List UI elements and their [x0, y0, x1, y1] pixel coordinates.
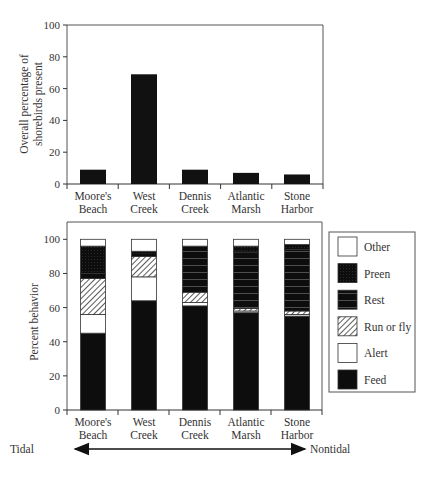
y-tick-label: 80 — [49, 51, 61, 63]
legend-label: Run or fly — [364, 321, 412, 334]
x-category-label: Creek — [181, 203, 209, 215]
x-category-label: Stone — [284, 190, 310, 202]
x-category-label: Atlantic — [227, 416, 264, 428]
top-chart-shorebird-presence: 020406080100Moore'sBeachWestCreekDennisC… — [44, 19, 324, 215]
y-tick-label: 80 — [49, 267, 61, 279]
tidal-label: Tidal — [10, 443, 34, 455]
legend-label: Other — [364, 241, 390, 253]
top-plot-frame — [67, 25, 323, 184]
x-category-label: Dennis — [179, 190, 212, 202]
bar — [131, 74, 157, 184]
stack-segment-alert — [183, 302, 208, 305]
stack-segment-feed — [183, 306, 208, 410]
stack-segment-run-or-fly — [285, 311, 310, 314]
bar — [233, 173, 259, 184]
stack-segment-feed — [132, 301, 157, 410]
stack-segment-other — [234, 239, 259, 246]
stack-segment-feed — [81, 333, 106, 410]
legend-label: Preen — [364, 268, 390, 280]
stack-segment-feed — [234, 313, 259, 410]
legend: OtherPreenRestRun or flyAlertFeed — [329, 232, 415, 392]
x-category-label: Stone — [284, 416, 310, 428]
x-category-label: Moore's — [74, 416, 112, 428]
stack-segment-preen — [234, 246, 259, 252]
bar — [182, 170, 208, 184]
legend-label: Feed — [364, 374, 387, 386]
bottom-chart-percent-behavior: 020406080100Moore'sBeachWestCreekDennisC… — [44, 222, 323, 441]
stack-segment-rest — [234, 252, 259, 308]
top-y-axis-label-line2: shorebirds present — [32, 61, 45, 146]
legend-swatch-alert — [338, 343, 357, 362]
bar — [284, 174, 310, 184]
legend-swatch-preen — [338, 264, 357, 283]
y-tick-label: 40 — [49, 114, 61, 126]
stack-segment-other — [183, 239, 208, 246]
x-category-label: West — [133, 190, 157, 202]
nontidal-label: Nontidal — [310, 443, 350, 455]
bar — [80, 170, 106, 184]
legend-swatch-other — [338, 237, 357, 256]
y-tick-label: 60 — [49, 302, 61, 314]
x-category-label: Creek — [130, 203, 158, 215]
stack-segment-run-or-fly — [183, 292, 208, 302]
stack-segment-rest — [183, 246, 208, 292]
legend-swatch-rest — [338, 290, 357, 309]
x-category-label: Moore's — [74, 190, 112, 202]
y-tick-label: 60 — [49, 83, 61, 95]
y-tick-label: 0 — [55, 404, 61, 416]
stack-segment-rest — [285, 250, 310, 311]
y-tick-label: 20 — [49, 146, 61, 158]
legend-label: Alert — [364, 347, 388, 359]
stack-segment-run-or-fly — [81, 279, 106, 315]
stack-segment-other — [132, 239, 157, 251]
x-category-label: Beach — [79, 429, 108, 441]
x-category-label: West — [133, 416, 157, 428]
stack-segment-other — [81, 239, 106, 246]
stack-segment-preen — [81, 246, 106, 273]
stack-segment-preen — [285, 244, 310, 249]
x-category-label: Dennis — [179, 416, 212, 428]
stack-segment-alert — [132, 277, 157, 301]
y-tick-label: 20 — [49, 370, 61, 382]
x-category-label: Creek — [181, 429, 209, 441]
x-category-label: Marsh — [231, 203, 261, 215]
stack-segment-rest — [81, 273, 106, 278]
y-tick-label: 0 — [55, 178, 61, 190]
legend-label: Rest — [364, 294, 385, 306]
legend-swatch-feed — [338, 370, 357, 389]
x-category-label: Atlantic — [227, 190, 264, 202]
x-category-label: Harbor — [281, 429, 314, 441]
x-category-label: Creek — [130, 429, 158, 441]
stack-segment-preen — [132, 251, 157, 256]
legend-swatch-run-or-fly — [338, 317, 357, 336]
stack-segment-feed — [285, 316, 310, 410]
x-category-label: Marsh — [231, 429, 261, 441]
bottom-y-axis-label: Percent behavior — [28, 283, 40, 361]
stack-segment-run-or-fly — [132, 256, 157, 276]
x-category-label: Harbor — [281, 203, 314, 215]
y-tick-label: 40 — [49, 336, 61, 348]
stack-segment-other — [285, 239, 310, 244]
top-y-axis-label-line1: Overall percentage of — [18, 54, 31, 154]
y-tick-label: 100 — [44, 233, 61, 245]
x-category-label: Beach — [79, 203, 108, 215]
stack-segment-alert — [81, 314, 106, 333]
figure: 020406080100Moore'sBeachWestCreekDennisC… — [0, 0, 447, 479]
y-tick-label: 100 — [44, 19, 61, 31]
